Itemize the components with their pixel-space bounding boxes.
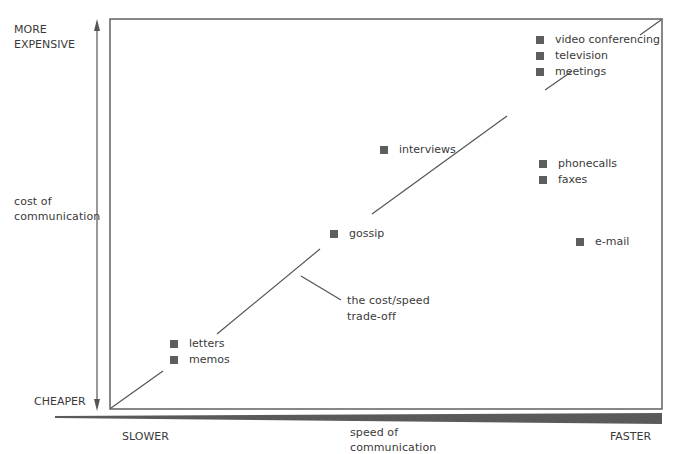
item-television: television — [536, 48, 608, 64]
square-marker-icon — [576, 238, 584, 246]
x-axis-left-label: SLOWER — [122, 429, 169, 445]
y-axis-top-label-line1: MORE — [14, 22, 47, 38]
item-memos: memos — [170, 352, 230, 368]
item-letters: letters — [170, 336, 224, 352]
tradeoff-line-segment — [372, 116, 507, 214]
item-label: phonecalls — [558, 156, 617, 172]
speed-axis-wedge — [55, 413, 662, 424]
item-phonecalls: phonecalls — [539, 156, 617, 172]
square-marker-icon — [539, 176, 547, 184]
item-meetings: meetings — [536, 64, 606, 80]
square-marker-icon — [536, 68, 544, 76]
y-axis-top-label-line2: EXPENSIVE — [14, 37, 75, 53]
item-label: television — [555, 48, 608, 64]
y-axis-middle-label-line2: communication — [14, 209, 100, 225]
item-label: gossip — [349, 226, 384, 242]
item-label: meetings — [555, 64, 606, 80]
item-e-mail: e-mail — [576, 234, 629, 250]
cost-axis-arrowhead-up — [94, 19, 100, 31]
item-label: memos — [189, 352, 230, 368]
square-marker-icon — [536, 52, 544, 60]
x-axis-right-label: FASTER — [610, 429, 651, 445]
item-interviews: interviews — [380, 142, 456, 158]
x-axis-middle-label-line2: communication — [350, 440, 436, 454]
tradeoff-pointer-line — [301, 276, 341, 300]
item-label: e-mail — [595, 234, 629, 250]
tradeoff-annotation-line2: trade-off — [347, 309, 396, 325]
item-label: video conferencing — [555, 32, 660, 48]
item-label: faxes — [558, 172, 587, 188]
cost-axis-arrowhead-down — [94, 399, 100, 411]
tradeoff-line-segment — [111, 371, 163, 408]
square-marker-icon — [330, 230, 338, 238]
y-axis-middle-label-line1: cost of — [14, 194, 52, 210]
square-marker-icon — [170, 356, 178, 364]
square-marker-icon — [170, 340, 178, 348]
square-marker-icon — [536, 36, 544, 44]
item-label: letters — [189, 336, 224, 352]
item-label: interviews — [399, 142, 456, 158]
square-marker-icon — [539, 160, 547, 168]
tradeoff-annotation-line1: the cost/speed — [347, 293, 430, 309]
item-video-conferencing: video conferencing — [536, 32, 660, 48]
item-faxes: faxes — [539, 172, 587, 188]
tradeoff-line-segment — [217, 249, 320, 334]
y-axis-bottom-label: CHEAPER — [34, 394, 86, 410]
square-marker-icon — [380, 146, 388, 154]
x-axis-middle-label-line1: speed of — [350, 425, 398, 441]
item-gossip: gossip — [330, 226, 384, 242]
